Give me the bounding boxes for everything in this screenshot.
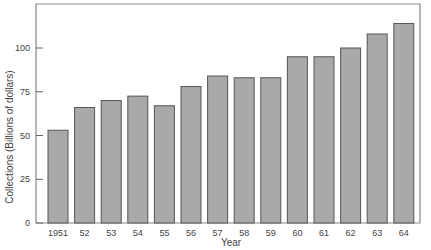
y-tick-label: 75 (20, 87, 30, 97)
bar-53 (101, 101, 121, 224)
x-tick-label: 54 (133, 228, 143, 238)
x-tick-label: 61 (319, 228, 329, 238)
bar-62 (341, 48, 361, 223)
y-tick-label: 0 (25, 218, 30, 228)
bar-61 (314, 57, 334, 223)
bar-56 (181, 87, 201, 224)
x-tick-label: 64 (399, 228, 409, 238)
x-tick-label: 53 (106, 228, 116, 238)
bar-57 (208, 76, 228, 223)
bar-60 (287, 57, 307, 223)
bar-58 (234, 78, 254, 223)
x-tick-label: 62 (346, 228, 356, 238)
x-tick-label: 1951 (48, 228, 68, 238)
bar-chart: 0255075100 19515253545556575859606162636… (0, 0, 431, 250)
y-tick-label: 100 (15, 43, 30, 53)
y-tick-label: 25 (20, 174, 30, 184)
bar-54 (128, 96, 148, 223)
x-tick-label: 60 (292, 228, 302, 238)
bar-59 (261, 78, 281, 223)
y-axis-title: Collections (Billions of dollars) (4, 70, 15, 203)
y-axis: 0255075100 (15, 43, 43, 228)
bar-52 (75, 108, 95, 224)
x-tick-label: 52 (80, 228, 90, 238)
bar-63 (367, 34, 387, 223)
bar-1951 (48, 130, 68, 223)
bar-55 (154, 106, 174, 223)
bar-64 (394, 24, 414, 224)
x-tick-label: 59 (266, 228, 276, 238)
x-tick-label: 63 (372, 228, 382, 238)
x-tick-label: 55 (159, 228, 169, 238)
bars (48, 24, 414, 224)
y-tick-label: 50 (20, 131, 30, 141)
x-tick-label: 56 (186, 228, 196, 238)
x-axis-title: Year (221, 237, 242, 248)
